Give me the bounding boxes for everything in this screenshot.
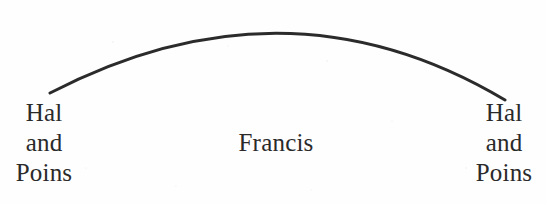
francis-center: Francis bbox=[216, 128, 336, 158]
label-line-and: and bbox=[6, 128, 82, 158]
scene-structure-diagram: Hal and Poins Francis Hal and Poins bbox=[0, 0, 547, 204]
hal-and-poins-left: Hal and Poins bbox=[6, 98, 82, 188]
arc-layer bbox=[0, 0, 547, 204]
hal-and-poins-right: Hal and Poins bbox=[466, 98, 542, 188]
label-line-and: and bbox=[466, 128, 542, 158]
label-line-francis: Francis bbox=[216, 128, 336, 158]
label-line-poins: Poins bbox=[466, 158, 542, 188]
label-line-hal: Hal bbox=[6, 98, 82, 128]
label-line-hal: Hal bbox=[466, 98, 542, 128]
label-line-poins: Poins bbox=[6, 158, 82, 188]
connecting-arc bbox=[50, 33, 505, 100]
